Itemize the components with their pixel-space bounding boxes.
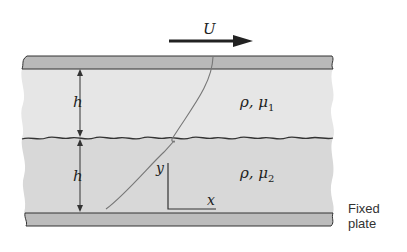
fluid-1-properties: ρ, μ1 bbox=[240, 93, 274, 113]
fluid-2-subscript: 2 bbox=[268, 173, 274, 184]
fixed-plate-label: Fixed plate bbox=[348, 201, 380, 231]
velocity-arrow-icon bbox=[233, 35, 253, 47]
moving-plate bbox=[22, 56, 333, 69]
fluid-layer-1 bbox=[21, 68, 334, 138]
fluid-1-subscript: 1 bbox=[268, 102, 274, 113]
fixed-plate-label-line1: Fixed bbox=[348, 201, 380, 216]
thickness-label-bottom: h bbox=[73, 167, 83, 185]
fluid-2-property-text: ρ, μ bbox=[240, 164, 268, 182]
velocity-label: U bbox=[203, 20, 216, 38]
x-axis-label: x bbox=[207, 192, 215, 208]
y-axis-label: y bbox=[156, 160, 164, 176]
fixed-plate-label-line2: plate bbox=[348, 216, 380, 231]
fluid-2-properties: ρ, μ2 bbox=[240, 164, 274, 184]
fluid-layer-2 bbox=[22, 138, 334, 213]
fixed-plate bbox=[25, 213, 333, 226]
thickness-label-top: h bbox=[73, 93, 83, 111]
fluid-1-property-text: ρ, μ bbox=[240, 93, 268, 111]
